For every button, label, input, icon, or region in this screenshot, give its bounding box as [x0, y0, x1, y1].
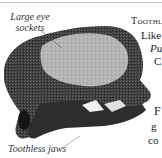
- eye-sockets-label-line2: sockets: [4, 22, 56, 33]
- body-text-line-6: g: [151, 119, 157, 133]
- eye-sockets-label-line1: Large eye: [4, 11, 56, 22]
- body-text-line-1: Toothl: [131, 14, 162, 28]
- eye-sockets-label: Large eye sockets: [4, 11, 56, 33]
- body-text-line-3: Pu: [150, 41, 162, 55]
- body-text-line-4: C: [154, 54, 161, 68]
- body-text-line-7: co: [148, 133, 158, 147]
- body-text-line-2: Like: [141, 28, 161, 42]
- toothless-jaws-label: Toothless jaws: [8, 143, 66, 154]
- body-text-line-5: F: [154, 104, 161, 118]
